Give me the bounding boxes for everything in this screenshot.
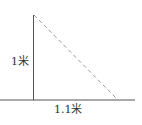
dashed-hypotenuse-line — [34, 15, 118, 100]
base-length-label: 1.1米 — [54, 104, 83, 115]
height-label: 1米 — [11, 56, 29, 67]
